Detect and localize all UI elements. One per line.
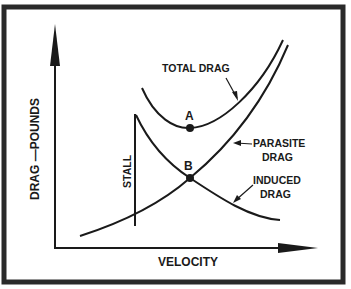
- point-b-label: B: [184, 159, 193, 173]
- total-drag-curve: [142, 40, 283, 128]
- y-axis-label: DRAG —POUNDS: [28, 98, 42, 200]
- stall-label: STALL: [121, 154, 133, 188]
- parasite-drag-leader-arrow-icon: [233, 140, 241, 146]
- point-a-label: A: [185, 109, 194, 123]
- total-drag-leader-arrow-icon: [232, 91, 238, 101]
- induced-drag-curve: [136, 115, 280, 220]
- point-b-marker: [186, 174, 194, 182]
- total-drag-label: TOTAL DRAG: [162, 62, 230, 74]
- induced-drag-label-line1: INDUCED: [253, 174, 301, 186]
- x-axis-arrow-icon: [278, 243, 318, 253]
- induced-drag-label-line2: DRAG: [260, 188, 291, 200]
- parasite-drag-label-line1: PARASITE: [253, 137, 305, 149]
- drag-chart: TOTAL DRAG A B PARASITE DRAG INDUCED DRA…: [0, 0, 351, 289]
- y-axis-arrow-icon: [50, 24, 60, 66]
- parasite-drag-label-line2: DRAG: [262, 151, 293, 163]
- x-axis-label: VELOCITY: [158, 255, 218, 269]
- point-a-marker: [186, 124, 194, 132]
